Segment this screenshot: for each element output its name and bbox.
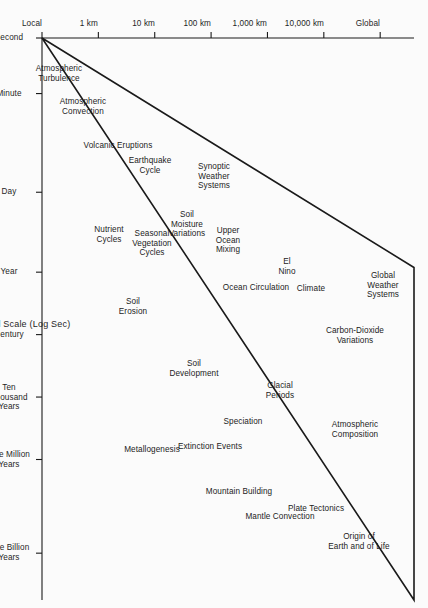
phenomenon-label: GlobalWeatherSystems: [335, 272, 428, 301]
spatial-tick-label: 10 km: [109, 19, 155, 29]
phenomenon-label: AtmosphericTurbulence: [11, 64, 107, 83]
phenomenon-label: GlacialPeriods: [232, 381, 328, 400]
envelope-triangle: [42, 38, 414, 600]
phenomenon-label: SoilErosion: [85, 297, 181, 316]
spatial-tick-label: Global: [334, 19, 380, 29]
spatial-tick-label: 1,000 km: [221, 19, 267, 29]
spatial-tick-label: Local: [0, 19, 42, 29]
temporal-tick-label: One BillionYears: [0, 544, 32, 563]
temporal-tick-label: Second: [0, 33, 32, 43]
temporal-axis-title: Characteristic Temporal Scale (Log Sec): [0, 319, 70, 329]
phenomenon-label: ElNino: [239, 258, 335, 277]
temporal-tick-label: Minute: [0, 89, 32, 99]
phenomenon-label: SoilDevelopment: [146, 359, 242, 378]
phenomenon-label: Origin ofEarth and of Life: [311, 533, 407, 552]
phenomenon-label: Carbon-DioxideVariations: [307, 326, 403, 345]
phenomenon-label: Speciation: [195, 417, 291, 427]
plot-vector-layer: [0, 0, 428, 608]
phenomenon-label: AtmosphericComposition: [307, 420, 403, 439]
plot-area: SecondMinuteDayYearCenturyTenThousandYea…: [0, 0, 428, 608]
temporal-tick-label: Day: [0, 187, 32, 197]
spatial-tick-label: 1 km: [52, 19, 98, 29]
phenomenon-label: Mountain Building: [191, 487, 287, 497]
spatial-tick-label: 100 km: [165, 19, 211, 29]
temporal-tick-label: Year: [0, 267, 32, 277]
phenomenon-label: Plate Tectonics: [268, 505, 364, 515]
phenomenon-label: Volcanic Eruptions: [70, 141, 166, 151]
phenomenon-label: Extinction Events: [162, 442, 258, 452]
spatial-tick-label: 10,000 km: [278, 19, 324, 29]
figure-canvas: SecondMinuteDayYearCenturyTenThousandYea…: [0, 0, 428, 608]
scale-diagram: SecondMinuteDayYearCenturyTenThousandYea…: [0, 0, 428, 608]
phenomenon-label: SynopticWeatherSystems: [166, 162, 262, 191]
phenomenon-label: AtmosphericConvection: [35, 97, 131, 116]
temporal-tick-label: Century: [0, 330, 32, 340]
temporal-tick-label: One MillionYears: [0, 450, 32, 469]
temporal-tick-label: TenThousandYears: [0, 383, 32, 412]
spatial-tick-marks: [42, 32, 380, 38]
phenomenon-label: UpperOceanMixing: [180, 226, 276, 255]
